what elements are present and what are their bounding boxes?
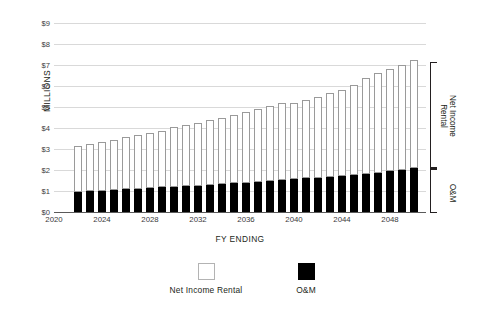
bar-2029 xyxy=(158,131,167,212)
bar-segment-net-income-rental-2026 xyxy=(122,137,131,189)
bar-segment-om-2033 xyxy=(206,185,215,212)
bar-2038 xyxy=(266,106,275,212)
bar-2024 xyxy=(98,142,107,212)
bar-segment-net-income-rental-2048 xyxy=(386,69,395,171)
bar-2047 xyxy=(374,73,383,212)
bar-2045 xyxy=(350,85,359,212)
bar-segment-om-2039 xyxy=(278,180,287,212)
bar-segment-om-2029 xyxy=(158,187,167,212)
bar-segment-net-income-rental-2040 xyxy=(290,103,299,179)
bar-segment-om-2022 xyxy=(74,192,83,212)
bar-segment-net-income-rental-2032 xyxy=(194,123,203,185)
x-tick-label-2044: 2044 xyxy=(333,215,350,224)
bar-2041 xyxy=(302,100,311,212)
legend-item-net-income-rental: Net Income Rental xyxy=(146,263,266,295)
bar-2027 xyxy=(134,135,143,212)
bar-segment-om-2026 xyxy=(122,189,131,212)
y-tick-label-5: $5 xyxy=(20,103,50,112)
bar-segment-net-income-rental-2046 xyxy=(362,78,371,174)
x-tick-label-2036: 2036 xyxy=(237,215,254,224)
bar-segment-om-2025 xyxy=(110,190,119,212)
bar-segment-om-2032 xyxy=(194,186,203,212)
bar-segment-net-income-rental-2029 xyxy=(158,131,167,188)
x-tick-label-2032: 2032 xyxy=(189,215,206,224)
bar-segment-om-2023 xyxy=(86,191,95,212)
y-tick-label-8: $8 xyxy=(20,40,50,49)
bar-segment-om-2041 xyxy=(302,178,311,212)
bar-segment-net-income-rental-2050 xyxy=(410,60,419,168)
legend-item-om: O&M xyxy=(268,263,344,295)
bar-segment-net-income-rental-2043 xyxy=(326,93,335,177)
bar-segment-om-2038 xyxy=(266,181,275,212)
bar-segment-net-income-rental-2025 xyxy=(110,140,119,190)
bar-segment-net-income-rental-2036 xyxy=(242,112,251,183)
bar-segment-om-2046 xyxy=(362,174,371,212)
plot-area xyxy=(54,23,426,212)
bar-segment-net-income-rental-2037 xyxy=(254,109,263,182)
bar-2042 xyxy=(314,97,323,212)
bar-segment-net-income-rental-2030 xyxy=(170,127,179,186)
bar-segment-om-2043 xyxy=(326,177,335,212)
legend-label-net-income-rental: Net Income Rental xyxy=(146,285,266,295)
bar-segment-om-2050 xyxy=(410,168,419,212)
bar-segment-om-2027 xyxy=(134,189,143,212)
bar-segment-net-income-rental-2042 xyxy=(314,97,323,178)
bar-2022 xyxy=(74,146,83,212)
bar-segment-net-income-rental-2049 xyxy=(398,65,407,170)
y-tick-label-7: $7 xyxy=(20,61,50,70)
bar-2049 xyxy=(398,65,407,212)
y-tick-label-9: $9 xyxy=(20,19,50,28)
bar-segment-net-income-rental-2023 xyxy=(86,144,95,192)
bar-segment-net-income-rental-2041 xyxy=(302,100,311,178)
bar-segment-net-income-rental-2045 xyxy=(350,85,359,174)
bar-2023 xyxy=(86,144,95,212)
bar-2035 xyxy=(230,115,239,212)
bar-2036 xyxy=(242,112,251,212)
bar-2043 xyxy=(326,93,335,212)
bar-2044 xyxy=(338,90,347,212)
bar-segment-net-income-rental-2033 xyxy=(206,120,215,185)
bar-segment-om-2035 xyxy=(230,183,239,212)
stack-bracket-divider xyxy=(430,167,437,170)
bar-segment-om-2047 xyxy=(374,173,383,212)
bar-segment-om-2048 xyxy=(386,171,395,212)
x-axis-title: FY ENDING xyxy=(54,234,426,244)
chart-legend: Net Income Rental O&M xyxy=(0,263,483,305)
bar-segment-om-2042 xyxy=(314,178,323,212)
bar-2031 xyxy=(182,125,191,212)
x-tick-label-2028: 2028 xyxy=(141,215,158,224)
x-tick-label-2040: 2040 xyxy=(285,215,302,224)
legend-label-om: O&M xyxy=(268,285,344,295)
bar-2025 xyxy=(110,140,119,212)
bar-segment-net-income-rental-2022 xyxy=(74,146,83,192)
bar-segment-om-2031 xyxy=(182,186,191,212)
y-tick-label-4: $4 xyxy=(20,124,50,133)
bar-segment-net-income-rental-2039 xyxy=(278,103,287,180)
bar-series-group xyxy=(54,23,426,212)
bar-segment-net-income-rental-2034 xyxy=(218,118,227,184)
bar-segment-om-2044 xyxy=(338,176,347,212)
y-tick-label-2: $2 xyxy=(20,166,50,175)
bar-2030 xyxy=(170,127,179,212)
bar-segment-om-2028 xyxy=(146,188,155,212)
x-tick-label-2024: 2024 xyxy=(93,215,110,224)
y-tick-label-1: $1 xyxy=(20,187,50,196)
bar-2046 xyxy=(362,78,371,212)
bar-segment-om-2037 xyxy=(254,182,263,212)
bar-2048 xyxy=(386,69,395,212)
y-tick-label-3: $3 xyxy=(20,145,50,154)
bar-segment-om-2034 xyxy=(218,184,227,212)
bar-2033 xyxy=(206,120,215,212)
bar-segment-om-2030 xyxy=(170,187,179,212)
bar-segment-om-2040 xyxy=(290,179,299,212)
legend-swatch-net-income-rental xyxy=(198,263,215,280)
bar-segment-net-income-rental-2038 xyxy=(266,106,275,181)
bar-segment-net-income-rental-2028 xyxy=(146,133,155,188)
bar-segment-om-2036 xyxy=(242,183,251,212)
y-tick-label-6: $6 xyxy=(20,82,50,91)
stack-bracket xyxy=(430,62,437,213)
bar-segment-net-income-rental-2035 xyxy=(230,115,239,183)
bar-segment-om-2024 xyxy=(98,191,107,212)
bar-segment-net-income-rental-2031 xyxy=(182,125,191,186)
bar-2034 xyxy=(218,118,227,212)
